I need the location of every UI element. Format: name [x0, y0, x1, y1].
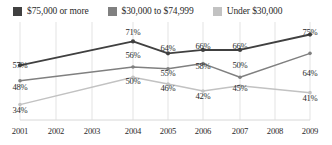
x-axis-tick-2001: 2001	[12, 126, 28, 136]
x-axis-tick-2007: 2007	[232, 126, 248, 136]
plot-area: 57%71%64%66%66%75%48%56%55%58%50%64%34%5…	[0, 22, 332, 122]
x-axis-tick-2009: 2009	[302, 126, 318, 136]
data-label: 75%	[302, 28, 317, 37]
data-label: 42%	[195, 92, 210, 101]
data-label: 41%	[302, 94, 317, 103]
data-label: 57%	[12, 61, 27, 70]
legend-label-high-income: $75,000 or more	[27, 6, 89, 16]
data-label: 50%	[125, 77, 140, 86]
x-axis-tick-2008: 2008	[267, 126, 283, 136]
data-label: 45%	[232, 84, 247, 93]
data-label: 34%	[12, 106, 27, 115]
legend-swatch-high-income	[13, 7, 22, 16]
x-axis-tick-2004: 2004	[125, 126, 141, 136]
data-label: 71%	[125, 28, 140, 37]
data-label: 66%	[195, 42, 210, 51]
legend-label-mid-income: $30,000 to $74,999	[122, 6, 194, 16]
data-label: 58%	[195, 62, 210, 71]
data-label: 64%	[302, 69, 317, 78]
legend-swatch-low-income	[213, 7, 222, 16]
x-axis-tick-2002: 2002	[48, 126, 64, 136]
data-label: 56%	[125, 51, 140, 60]
x-axis: 200120022003200420052006200720082009	[0, 126, 332, 142]
data-label: 66%	[232, 42, 247, 51]
data-label: 48%	[12, 83, 27, 92]
data-label: 55%	[160, 69, 175, 78]
data-point-marker	[131, 65, 135, 69]
data-point-marker	[308, 52, 312, 56]
data-label: 46%	[160, 84, 175, 93]
legend-item-high-income: $75,000 or more	[13, 6, 89, 16]
legend-swatch-mid-income	[108, 7, 117, 16]
x-axis-tick-2006: 2006	[195, 126, 211, 136]
data-label: 64%	[160, 44, 175, 53]
x-axis-tick-2005: 2005	[160, 126, 176, 136]
legend-item-low-income: Under $30,000	[213, 6, 283, 16]
legend-label-low-income: Under $30,000	[227, 6, 283, 16]
line-chart: $75,000 or more $30,000 to $74,999 Under…	[0, 0, 332, 145]
data-label: 50%	[232, 61, 247, 70]
x-axis-tick-2003: 2003	[84, 126, 100, 136]
data-point-marker	[131, 39, 135, 43]
legend-item-mid-income: $30,000 to $74,999	[108, 6, 194, 16]
chart-legend: $75,000 or more $30,000 to $74,999 Under…	[0, 0, 332, 22]
data-point-marker	[238, 75, 242, 79]
